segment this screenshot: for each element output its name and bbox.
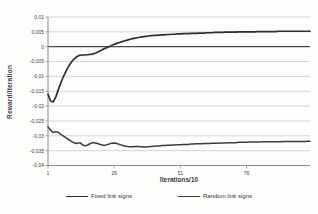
y-tick-label: -0,035: [30, 148, 44, 154]
y-tick-label: -0,04: [33, 162, 45, 168]
reward-line-chart-figure: 0,010,0050-0,005-0,01-0,015-0,02-0,025-0…: [0, 0, 318, 214]
chart-plot-area: 0,010,0050-0,005-0,01-0,015-0,02-0,025-0…: [0, 0, 318, 192]
x-tick-label: 76: [244, 170, 250, 176]
y-tick-label: 0: [41, 44, 44, 50]
chart-legend: Fixed link signs Random link signs: [0, 193, 318, 199]
y-tick-label: -0,01: [33, 73, 45, 79]
x-tick-label: 51: [178, 170, 184, 176]
legend-item-random-link-signs: Random link signs: [178, 193, 252, 199]
legend-item-fixed-link-signs: Fixed link signs: [66, 193, 132, 199]
y-tick-label: -0,02: [33, 103, 45, 109]
y-tick-label: -0,005: [30, 58, 44, 64]
fixed-series-label: Fixed link signs: [91, 193, 132, 199]
y-tick-label: 0,005: [31, 29, 44, 35]
fixed-series-line-swatch: [66, 196, 88, 197]
random-series-line-swatch: [178, 196, 200, 197]
x-axis-title: Iterations/10: [48, 176, 310, 183]
series-line-random-link-signs: [48, 127, 310, 147]
random-series-label: Random link signs: [203, 193, 252, 199]
y-axis-title: Reward/Iteration: [3, 17, 15, 166]
y-tick-label: -0,03: [33, 133, 45, 139]
y-tick-label: -0,025: [30, 118, 44, 124]
x-tick-label: 26: [111, 170, 117, 176]
y-tick-label: 0,01: [34, 14, 44, 20]
x-tick-label: 1: [47, 170, 50, 176]
y-tick-label: -0,015: [30, 88, 44, 94]
